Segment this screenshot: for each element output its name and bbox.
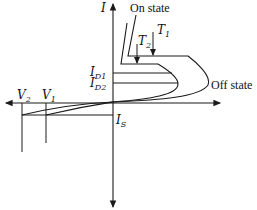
on-state-label: On state (130, 1, 170, 15)
vertical-axis-label: I (100, 1, 106, 15)
v1-label: V1 (42, 88, 56, 104)
iv-diagram: I On state Off state T1 T2 ID1 ID2 IS V2… (0, 0, 257, 210)
is-label: IS (115, 113, 127, 129)
v2-label: V2 (17, 88, 31, 104)
t2-label: T2 (138, 34, 151, 50)
axes (6, 4, 220, 207)
off-state-label: Off state (211, 78, 252, 92)
t1-label: T1 (157, 23, 170, 39)
